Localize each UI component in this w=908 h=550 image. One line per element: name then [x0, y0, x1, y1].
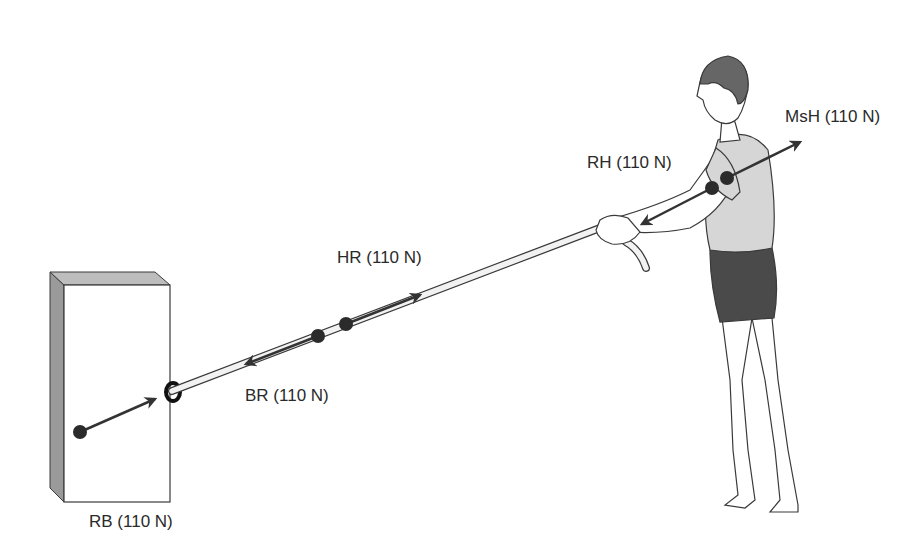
dot-msh-icon: [720, 171, 734, 185]
arrow-br-icon: [246, 336, 318, 364]
label-rb: RB (110 N): [89, 512, 173, 532]
label-msh: MsH (110 N): [785, 107, 880, 127]
block: [50, 272, 170, 502]
label-rh: RH (110 N): [587, 153, 672, 173]
force-diagram: [0, 0, 908, 550]
dot-br-icon: [311, 329, 325, 343]
label-hr: HR (110 N): [337, 248, 422, 268]
person: [596, 56, 798, 512]
arrow-hr-icon: [346, 295, 420, 324]
dot-rh-icon: [705, 181, 719, 195]
label-br: BR (110 N): [245, 386, 329, 406]
dot-rb-icon: [73, 425, 87, 439]
dot-hr-icon: [339, 317, 353, 331]
